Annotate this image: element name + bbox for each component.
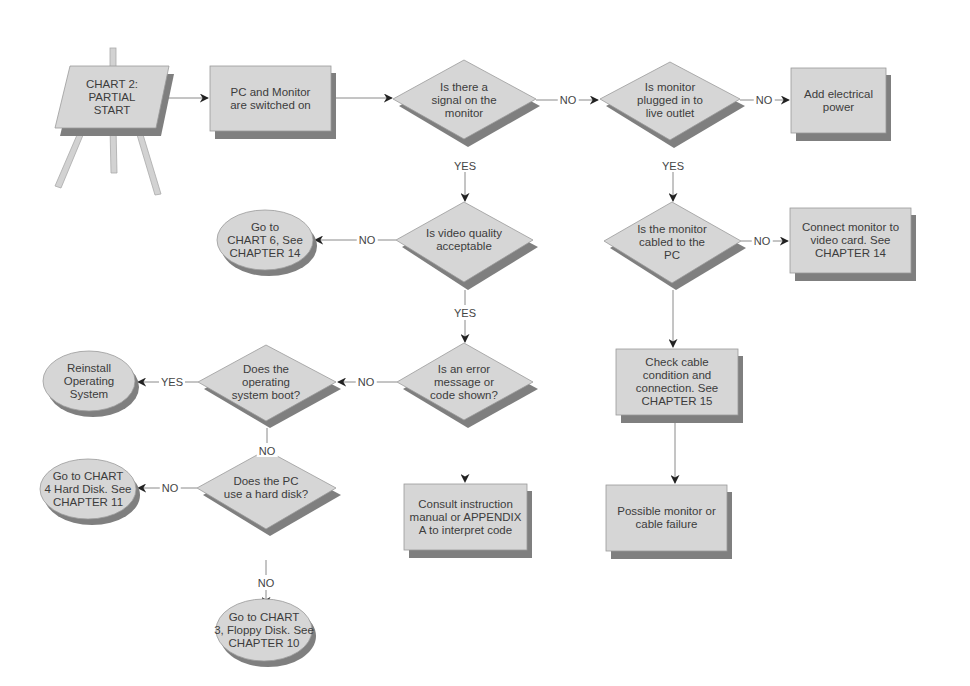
pc-on-node[interactable]: PC and Monitor are switched on <box>210 66 331 131</box>
label-cabled-connect-no: NO <box>752 235 773 247</box>
label-video-chart6-no: NO <box>357 234 378 246</box>
check-cable-node[interactable]: Check cable condition and connection. Se… <box>616 349 738 415</box>
consult-node[interactable]: Consult instruction manual or APPENDIX A… <box>404 484 527 550</box>
chart6-node[interactable]: Go to CHART 6, See CHAPTER 14 <box>217 210 313 270</box>
chart3-node[interactable]: Go to CHART 3, Floppy Disk. See CHAPTER … <box>210 599 318 661</box>
signal-node[interactable]: Is there a signal on the monitor <box>408 70 520 130</box>
video-quality-node[interactable]: Is video quality acceptable <box>408 212 520 268</box>
label-plugged-power-no: NO <box>754 94 775 106</box>
label-harddisk-chart3-no: NO <box>256 577 277 589</box>
chart4-node[interactable]: Go to CHART 4 Hard Disk. See CHAPTER 11 <box>36 459 140 519</box>
label-boot-reinstall-yes: YES <box>159 376 185 388</box>
label-boot-harddisk-no: NO <box>257 445 278 457</box>
plugged-node[interactable]: Is monitor plugged in to live outlet <box>614 70 726 130</box>
label-harddisk-chart4-no: NO <box>160 482 181 494</box>
label-plugged-cabled-yes: YES <box>660 160 686 172</box>
label-error-boot-no: NO <box>356 376 377 388</box>
reinstall-node[interactable]: Reinstall Operating System <box>43 351 135 411</box>
easel-leg-left <box>55 128 86 188</box>
label-signal-plugged-no: NO <box>558 94 579 106</box>
easel-peg <box>110 48 116 68</box>
connect-node[interactable]: Connect monitor to video card. See CHAPT… <box>790 208 911 273</box>
hard-disk-node[interactable]: Does the PC use a hard disk? <box>208 460 324 516</box>
add-power-node[interactable]: Add electrical power <box>791 68 886 133</box>
monitor-failure-node[interactable]: Possible monitor or cable failure <box>606 485 727 551</box>
error-code-node[interactable]: Is an error message or code shown? <box>408 352 520 412</box>
label-video-error-yes: YES <box>452 307 478 319</box>
easel-leg-right <box>135 128 161 195</box>
os-boot-node[interactable]: Does the operating system boot? <box>210 352 322 412</box>
start-node[interactable]: CHART 2: PARTIAL START <box>62 68 162 126</box>
cabled-node[interactable]: Is the monitor cabled to the PC <box>616 212 728 272</box>
label-signal-video-yes: YES <box>452 160 478 172</box>
